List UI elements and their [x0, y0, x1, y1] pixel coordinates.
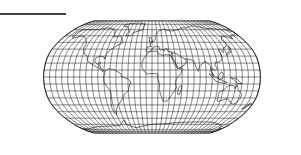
landmass-north-america [73, 28, 124, 71]
world-map-svg [0, 0, 301, 155]
world-map [0, 0, 301, 155]
landmass-south-america [104, 69, 131, 115]
landmass-nz [242, 103, 252, 109]
